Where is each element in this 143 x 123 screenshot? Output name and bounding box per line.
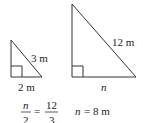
small-base-label: 2 m (18, 81, 35, 93)
small-hypotenuse-label: 3 m (31, 52, 48, 64)
result-variable: n (75, 105, 81, 117)
right-angle-marker (72, 66, 83, 77)
similar-triangles-diagram: 3 m 2 m 12 m n n 2 = 12 3 n = 8 m (0, 0, 143, 123)
right-angle-marker (11, 66, 22, 77)
small-triangle: 3 m 2 m (11, 40, 48, 93)
large-hypotenuse-label: 12 m (112, 36, 135, 48)
large-triangle: 12 m n (72, 4, 136, 93)
result-value: = 8 m (84, 105, 110, 117)
right-numerator: 12 (46, 99, 57, 111)
left-denominator: 2 (23, 114, 29, 123)
equals-sign: = (34, 105, 40, 117)
large-base-label: n (101, 81, 107, 93)
left-numerator: n (23, 99, 29, 111)
proportion-equation: n 2 = 12 3 n = 8 m (21, 99, 110, 123)
right-denominator: 3 (49, 114, 55, 123)
